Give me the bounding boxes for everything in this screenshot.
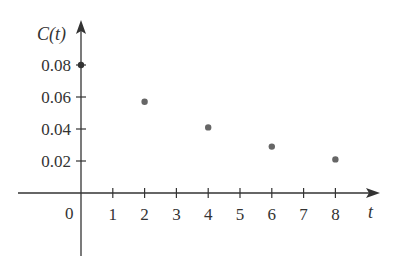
data-point [269,143,275,149]
x-tick-label: 2 [140,205,149,224]
x-tick-label: 8 [331,205,340,224]
x-axis-label: t [368,202,374,222]
data-point [141,99,147,105]
data-points [78,62,339,163]
ticks [76,65,335,198]
y-tick-label: 0.06 [41,88,71,107]
y-tick-label: 0.04 [41,120,71,139]
x-tick-label: 5 [236,205,245,224]
origin-label: 0 [65,204,74,223]
x-tick-label: 7 [299,205,308,224]
data-point [78,62,84,68]
y-tick-label: 0.02 [41,152,71,171]
data-point [205,124,211,130]
y-tick-label: 0.08 [41,56,71,75]
x-tick-label: 3 [172,205,181,224]
tick-labels: 123456780.020.040.060.08 [41,56,339,224]
x-tick-label: 4 [204,205,213,224]
x-tick-label: 6 [268,205,277,224]
data-point [332,156,338,162]
y-axis-label: C(t) [37,24,66,45]
x-tick-label: 1 [109,205,118,224]
scatter-chart: 123456780.020.040.060.08 C(t) t 0 [0,0,401,275]
